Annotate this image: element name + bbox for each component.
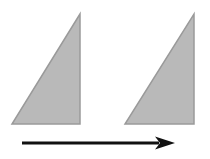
translation-diagram — [0, 0, 210, 159]
